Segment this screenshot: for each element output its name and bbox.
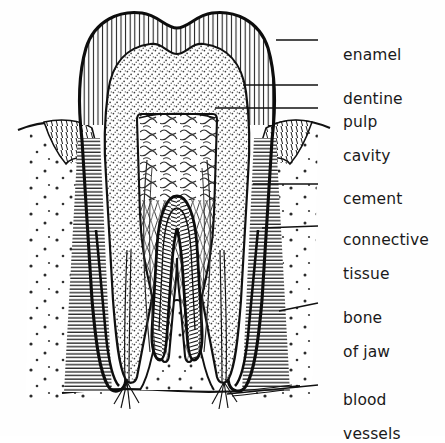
label-bone-of-jaw: bone of jaw bbox=[323, 293, 390, 378]
label-enamel-line1: enamel bbox=[343, 46, 401, 64]
label-pulp-cavity-line2: cavity bbox=[343, 147, 390, 165]
label-pulp-cavity-line1: pulp bbox=[343, 113, 377, 131]
label-bone-of-jaw-line2: of jaw bbox=[343, 343, 390, 361]
label-connective-tissue: connective tissue bbox=[323, 215, 429, 300]
label-blood-vessels-line1: blood bbox=[343, 391, 386, 409]
label-blood-vessels: blood vessels bbox=[323, 375, 401, 443]
label-connective-tissue-line1: connective bbox=[343, 231, 429, 249]
label-bone-of-jaw-line1: bone bbox=[343, 309, 382, 327]
label-pulp-cavity: pulp cavity bbox=[323, 97, 390, 182]
label-cement-line1: cement bbox=[343, 190, 402, 208]
label-blood-vessels-line2: vessels bbox=[343, 425, 400, 443]
label-connective-tissue-line2: tissue bbox=[343, 265, 390, 283]
